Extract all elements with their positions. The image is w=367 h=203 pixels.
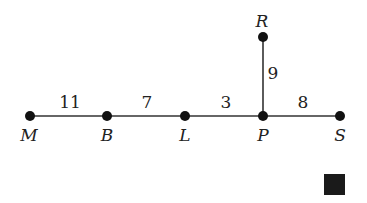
- edge-weight-b-l: 7: [142, 92, 153, 112]
- edge-weight-m-b: 11: [59, 92, 81, 112]
- node-m: [25, 111, 35, 121]
- node-label-p: P: [257, 125, 268, 145]
- graph-canvas: [0, 0, 367, 203]
- node-s: [335, 111, 345, 121]
- node-label-l: L: [179, 125, 190, 145]
- node-label-r: R: [256, 11, 269, 31]
- node-p: [258, 111, 268, 121]
- node-l: [180, 111, 190, 121]
- node-label-s: S: [334, 125, 346, 145]
- edge-weight-l-p: 3: [221, 92, 232, 112]
- node-r: [258, 32, 268, 42]
- edge-weight-p-s: 8: [298, 92, 309, 112]
- node-label-m: M: [20, 125, 37, 145]
- node-b: [102, 111, 112, 121]
- edge-weight-p-r: 9: [268, 63, 279, 83]
- node-label-b: B: [101, 125, 114, 145]
- end-of-proof-square: [324, 174, 345, 195]
